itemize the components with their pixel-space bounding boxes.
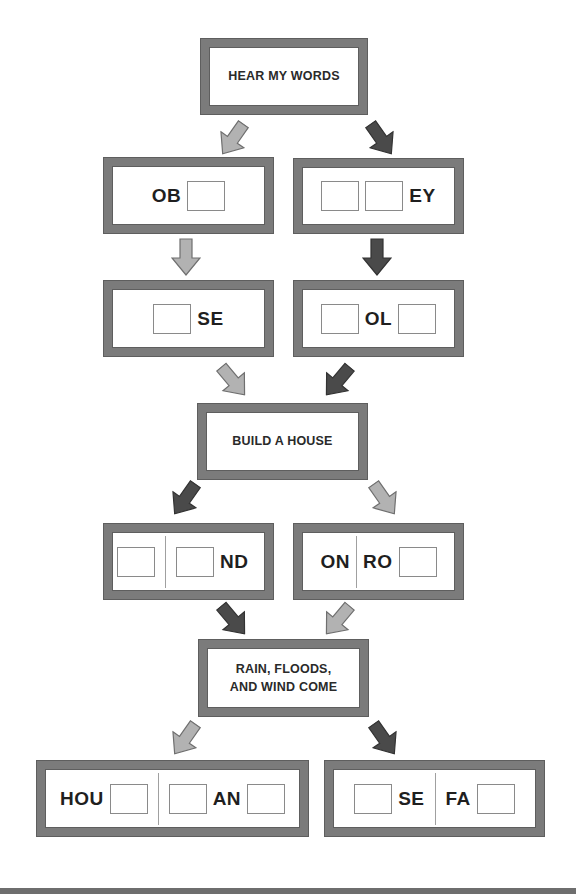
hear-my-words-box: HEAR MY WORDS xyxy=(200,38,368,115)
word-fragment: OL xyxy=(365,308,392,330)
build-a-house-box: BUILD A HOUSE xyxy=(197,403,368,480)
puzzle-box-se-inner: SE xyxy=(112,289,265,348)
divider xyxy=(435,773,436,825)
segment: ND xyxy=(168,547,248,577)
segment: HOU xyxy=(52,784,156,814)
bottom-bar xyxy=(0,888,576,894)
puzzle-box-ey-inner: EY xyxy=(302,167,455,225)
puzzle-box-ey: EY xyxy=(293,158,464,234)
arrow-down-right-icon xyxy=(358,115,404,163)
puzzle-box-hou-an: HOU AN xyxy=(36,760,309,837)
puzzle-box-ob: OB xyxy=(103,157,274,234)
segment: FA xyxy=(438,784,523,814)
puzzle-box-ol-inner: OL xyxy=(302,289,455,348)
word-fragment: SE xyxy=(398,788,424,810)
rain-floods-wind-inner: RAIN, FLOODS, AND WIND COME xyxy=(207,648,360,708)
word-fragment: EY xyxy=(409,185,435,207)
puzzle-box-on-ro-inner: ON RO xyxy=(302,532,455,591)
divider xyxy=(158,773,159,825)
segment: ON xyxy=(321,551,355,573)
arrow-down-right-icon xyxy=(209,357,256,405)
word-fragment: RO xyxy=(363,551,393,573)
puzzle-box-se: SE xyxy=(103,280,274,357)
rain-floods-label-line1: RAIN, FLOODS, xyxy=(236,660,332,678)
build-a-house-label: BUILD A HOUSE xyxy=(232,432,332,450)
arrow-down-icon xyxy=(171,238,201,276)
segment: AN xyxy=(161,784,293,814)
segment: EY xyxy=(313,181,443,211)
arrow-down-right-icon xyxy=(361,475,407,523)
letter-blank[interactable] xyxy=(399,547,437,577)
puzzle-box-on-ro: ON RO xyxy=(293,523,464,600)
puzzle-box-se-fa-inner: SE FA xyxy=(333,769,536,828)
puzzle-box-ob-inner: OB xyxy=(112,166,265,225)
word-fragment: FA xyxy=(446,788,471,810)
letter-blank[interactable] xyxy=(365,181,403,211)
letter-blank[interactable] xyxy=(398,304,436,334)
arrow-down-left-icon xyxy=(162,715,208,763)
segment: SE xyxy=(145,304,231,334)
letter-blank[interactable] xyxy=(247,784,285,814)
letter-blank[interactable] xyxy=(477,784,515,814)
hear-my-words-inner: HEAR MY WORDS xyxy=(209,47,359,106)
arrow-down-left-icon xyxy=(162,475,208,523)
word-fragment: OB xyxy=(152,185,182,207)
letter-blank[interactable] xyxy=(176,547,214,577)
arrow-down-left-icon xyxy=(314,596,361,644)
segment xyxy=(115,547,163,577)
letter-blank[interactable] xyxy=(117,547,155,577)
word-fragment: ND xyxy=(220,551,248,573)
letter-blank[interactable] xyxy=(354,784,392,814)
divider xyxy=(165,536,166,588)
arrow-down-right-icon xyxy=(209,596,256,644)
word-fragment: ON xyxy=(321,551,351,573)
letter-blank[interactable] xyxy=(321,304,359,334)
word-fragment: SE xyxy=(197,308,223,330)
puzzle-box-ol: OL xyxy=(293,280,464,357)
arrow-down-right-icon xyxy=(361,715,407,763)
segment: OB xyxy=(144,181,234,211)
build-a-house-inner: BUILD A HOUSE xyxy=(206,412,359,471)
puzzle-box-nd-inner: ND xyxy=(112,532,265,591)
letter-blank[interactable] xyxy=(110,784,148,814)
puzzle-box-hou-an-inner: HOU AN xyxy=(45,769,300,828)
word-fragment: HOU xyxy=(60,788,104,810)
letter-blank[interactable] xyxy=(187,181,225,211)
arrow-down-left-icon xyxy=(210,115,256,163)
segment: SE xyxy=(346,784,432,814)
letter-blank[interactable] xyxy=(321,181,359,211)
puzzle-box-se-fa: SE FA xyxy=(324,760,545,837)
rain-floods-wind-box: RAIN, FLOODS, AND WIND COME xyxy=(198,639,369,717)
letter-blank[interactable] xyxy=(169,784,207,814)
word-fragment: AN xyxy=(213,788,241,810)
rain-floods-label-line2: AND WIND COME xyxy=(230,678,337,696)
arrow-down-icon xyxy=(362,238,392,276)
arrow-down-left-icon xyxy=(314,357,361,405)
letter-blank[interactable] xyxy=(153,304,191,334)
segment: OL xyxy=(313,304,444,334)
puzzle-box-nd: ND xyxy=(103,523,274,600)
hear-my-words-label: HEAR MY WORDS xyxy=(228,67,339,85)
divider xyxy=(356,536,357,588)
segment: RO xyxy=(359,547,437,577)
